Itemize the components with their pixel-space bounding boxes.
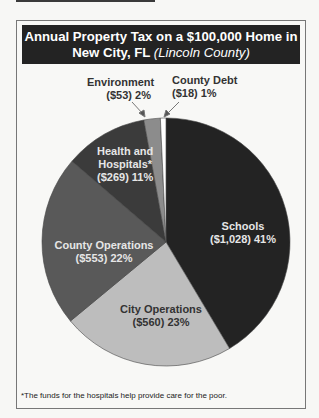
label-schools-detail: ($1,028) 41% bbox=[197, 233, 289, 246]
label-county-ops: County Operations ($553) 22% bbox=[47, 239, 161, 265]
label-environment-detail: ($53) 2% bbox=[87, 89, 154, 102]
label-schools-name: Schools bbox=[197, 220, 289, 233]
label-health-detail: ($269) 11% bbox=[97, 171, 153, 184]
label-health-name-2: Hospitals* bbox=[97, 158, 153, 171]
label-city-ops-detail: ($560) 23% bbox=[111, 316, 211, 329]
label-environment: Environment ($53) 2% bbox=[87, 76, 154, 102]
chart-frame: Annual Property Tax on a $100,000 Home i… bbox=[16, 20, 306, 409]
county-debt-arrow-head bbox=[164, 110, 170, 117]
label-county-ops-detail: ($553) 22% bbox=[47, 252, 161, 265]
label-county-ops-name: County Operations bbox=[47, 239, 161, 252]
label-health: Health and Hospitals* ($269) 11% bbox=[97, 145, 153, 184]
top-edge-bar bbox=[16, 0, 155, 2]
label-city-ops: City Operations ($560) 23% bbox=[111, 303, 211, 329]
label-county-debt-detail: ($18) 1% bbox=[172, 87, 237, 100]
pie-chart bbox=[17, 21, 307, 410]
footnote: *The funds for the hospitals help provid… bbox=[21, 391, 227, 400]
label-health-name-1: Health and bbox=[97, 145, 153, 158]
label-county-debt-name: County Debt bbox=[172, 74, 237, 87]
callout-arrows bbox=[132, 102, 179, 117]
label-city-ops-name: City Operations bbox=[111, 303, 211, 316]
label-schools: Schools ($1,028) 41% bbox=[197, 220, 289, 246]
label-environment-name: Environment bbox=[87, 76, 154, 89]
label-county-debt: County Debt ($18) 1% bbox=[172, 74, 237, 100]
